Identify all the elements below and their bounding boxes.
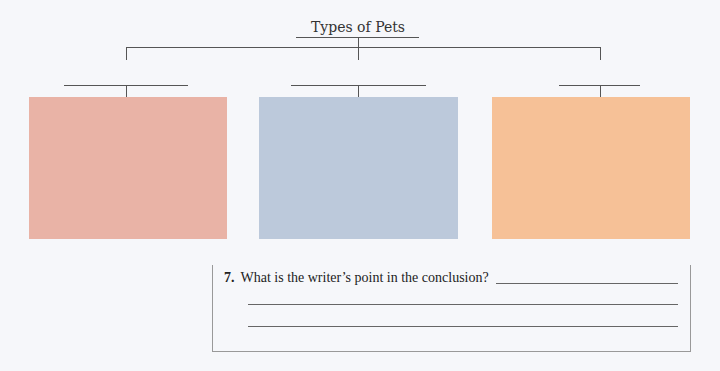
answer-line-1[interactable] [496,283,678,284]
question-number: 7. [224,270,235,285]
pet-type-box-2[interactable] [259,97,458,239]
label-stem-2 [358,85,359,97]
branch-stem-left [126,47,127,60]
label-stem-1 [126,85,127,97]
answer-line-2[interactable] [248,304,678,305]
label-stem-3 [600,85,601,97]
pet-type-box-1[interactable] [29,97,227,239]
branch-connector [126,47,601,48]
diagram-title: Types of Pets [296,19,420,35]
branch-stem-right [600,47,601,60]
pet-type-box-3[interactable] [492,97,690,239]
question-7: 7.What is the writer’s point in the conc… [224,270,489,286]
title-stem [358,37,359,60]
question-text: What is the writer’s point in the conclu… [241,270,489,285]
answer-line-3[interactable] [248,326,678,327]
